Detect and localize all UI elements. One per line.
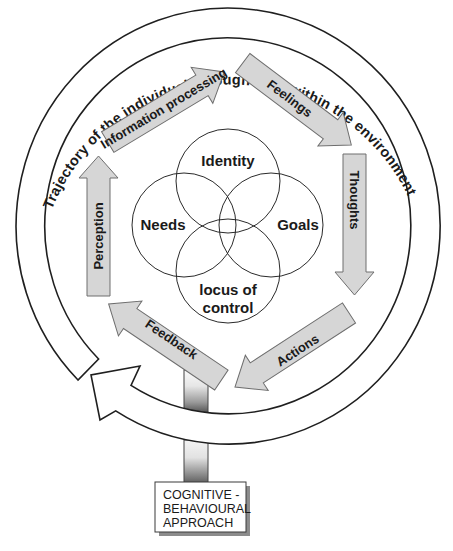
venn-label-locus-line1: locus of: [199, 281, 258, 298]
cognitive-behavioural-diagram: Trajectory of the individual through tim…: [0, 0, 453, 551]
connector-bar-lower: [184, 440, 208, 484]
venn-circle-identity: [176, 129, 280, 233]
approach-box-line1: COGNITIVE -: [163, 488, 239, 502]
venn-label-identity: Identity: [201, 152, 255, 169]
venn-label-needs: Needs: [140, 216, 185, 233]
approach-box-line2: BEHAVIOURAL: [163, 502, 251, 516]
venn-label-goals: Goals: [277, 216, 319, 233]
venn-label-locus-line2: control: [203, 299, 254, 316]
label-thoughts: Thoughts: [347, 170, 362, 229]
label-perception: Perception: [91, 202, 106, 269]
approach-box-line3: APPROACH: [163, 516, 233, 530]
